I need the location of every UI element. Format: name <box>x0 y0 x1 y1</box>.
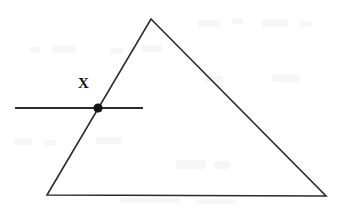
geometry-figure: X <box>0 0 347 209</box>
figure-canvas <box>0 0 347 209</box>
figure-background <box>0 0 347 209</box>
point-label-x: X <box>78 76 89 91</box>
intersection-point-dot <box>93 103 102 112</box>
